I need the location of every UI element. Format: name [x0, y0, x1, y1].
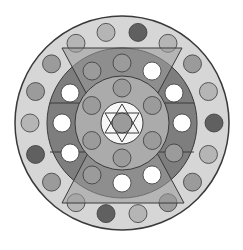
middle-dot [143, 166, 161, 184]
outer-dot [199, 83, 217, 101]
outer-dot [129, 205, 147, 223]
inner-dot [83, 97, 101, 115]
inner-dot [113, 149, 131, 167]
outer-dot [199, 145, 217, 163]
outer-dot [27, 83, 45, 101]
middle-dot [165, 84, 183, 102]
outer-dot [97, 23, 115, 41]
middle-dot [53, 114, 71, 132]
mandala-diagram [0, 0, 243, 250]
middle-dot [165, 144, 183, 162]
middle-dot [173, 114, 191, 132]
outer-dot [129, 23, 147, 41]
middle-dot [61, 84, 79, 102]
middle-dot [83, 166, 101, 184]
middle-dot [113, 174, 131, 192]
inner-dot [143, 97, 161, 115]
outer-dot [21, 114, 39, 132]
outer-dot [183, 55, 201, 73]
outer-dot [43, 55, 61, 73]
middle-dot [61, 144, 79, 162]
outer-dot [97, 205, 115, 223]
center-dot [112, 113, 132, 133]
outer-dot [27, 145, 45, 163]
middle-dot [113, 54, 131, 72]
middle-dot [83, 62, 101, 80]
middle-dot [143, 62, 161, 80]
outer-dot [205, 114, 223, 132]
outer-dot [43, 173, 61, 191]
inner-dot [113, 79, 131, 97]
inner-dot [83, 132, 101, 150]
inner-dot [143, 132, 161, 150]
outer-dot [183, 173, 201, 191]
